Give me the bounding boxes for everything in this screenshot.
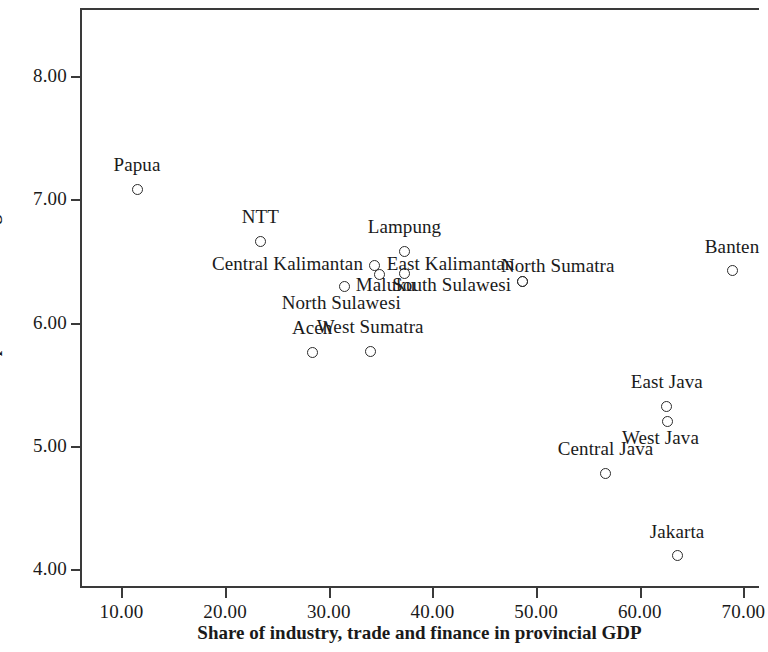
data-point-label: East Java [631,371,703,393]
data-point-label: Banten [705,236,759,258]
data-point-marker [662,416,673,427]
x-axis-tick [536,588,538,598]
scatter-plot-figure: 4.005.006.007.008.0010.0020.0030.0040.00… [0,0,768,652]
plot-area: 4.005.006.007.008.0010.0020.0030.0040.00… [80,8,759,588]
data-point-label: Papua [114,154,161,176]
x-axis-tick-label: 60.00 [618,601,662,623]
data-point-label: Lampung [368,216,442,238]
data-point-label: Jakarta [650,521,705,543]
y-axis-tick [71,569,80,571]
data-point-marker [365,346,376,357]
y-axis-tick [71,199,80,201]
data-point-marker [339,281,350,292]
x-axis-tick [743,588,745,598]
x-axis-tick [329,588,331,598]
x-axis-tick-label: 20.00 [203,601,247,623]
data-point-label: NTT [242,206,279,228]
data-point-marker [307,347,318,358]
data-point-label: East Kalimantan [387,253,515,275]
x-axis-title: Share of industry, trade and finance in … [80,622,759,644]
x-axis-tick-label: 50.00 [514,601,558,623]
x-axis-tick-label: 30.00 [307,601,351,623]
x-axis-tick-label: 10.00 [100,601,144,623]
data-point-label: South Sulawesi [392,274,511,296]
y-axis-tick-label: 8.00 [33,65,67,87]
data-point-label: North Sumatra [501,255,615,277]
x-axis-tick [121,588,123,598]
y-axis-tick [71,76,80,78]
x-axis-tick [432,588,434,598]
y-axis-tick-label: 5.00 [33,435,67,457]
data-point-marker [661,401,672,412]
y-axis-tick-label: 7.00 [33,188,67,210]
x-axis-tick-label: 70.00 [722,601,766,623]
data-point-label: West Sumatra [317,316,424,338]
data-point-label: Central Java [558,438,654,460]
y-axis-tick [71,446,80,448]
y-axis-tick-label: 4.00 [33,558,67,580]
data-point-marker [727,265,738,276]
data-point-marker [132,184,143,195]
y-axis-tick [71,323,80,325]
y-axis-tick-label: 6.00 [33,312,67,334]
data-point-marker [672,550,683,561]
x-axis-tick [640,588,642,598]
x-axis-tick-label: 40.00 [411,601,455,623]
data-point-marker [255,236,266,247]
data-point-marker [600,468,611,479]
y-axis-title: CPI provincial average [0,206,3,394]
x-axis-tick [225,588,227,598]
data-point-label: Central Kalimantan [212,253,363,275]
data-point-marker [517,276,528,287]
